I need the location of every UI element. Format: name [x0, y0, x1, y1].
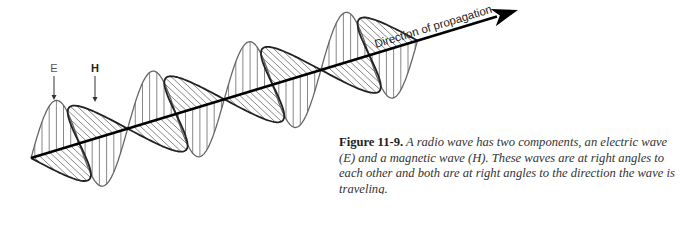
- h-label: H: [91, 62, 99, 74]
- figure-caption: Figure 11-9. A radio wave has two compon…: [339, 135, 684, 194]
- e-pointer-head-icon: [52, 95, 57, 100]
- e-label: E: [50, 62, 57, 74]
- h-marker: H: [91, 62, 99, 102]
- h-pointer-head-icon: [93, 97, 98, 102]
- figure-number: Figure 11-9.: [339, 135, 403, 149]
- e-marker: E: [50, 62, 57, 100]
